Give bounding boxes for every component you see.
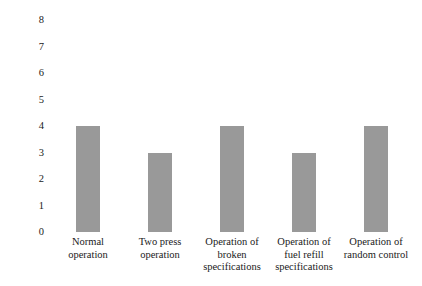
bar[interactable] <box>364 126 388 232</box>
y-tick-label: 7 <box>18 41 44 53</box>
bar-slot <box>196 20 268 232</box>
plot-area <box>52 20 412 232</box>
y-axis-tick-labels: 876543210 <box>0 0 52 286</box>
y-tick-label: 0 <box>18 226 44 238</box>
y-tick-label: 1 <box>18 200 44 212</box>
bar[interactable] <box>76 126 100 232</box>
x-category-label-line: Operation of <box>334 236 418 249</box>
y-tick-label: 6 <box>18 67 44 79</box>
bar-chart: Number of positive answers 876543210 Nor… <box>0 0 422 286</box>
x-category-label-line: specifications <box>262 261 346 274</box>
x-axis-category-labels: NormaloperationTwo pressoperationOperati… <box>52 236 417 286</box>
y-tick-label: 4 <box>18 120 44 132</box>
bar-slot <box>340 20 412 232</box>
y-tick-label: 2 <box>18 173 44 185</box>
x-category-label-line: random control <box>334 249 418 262</box>
y-tick-label: 3 <box>18 147 44 159</box>
y-tick-label: 5 <box>18 94 44 106</box>
bar[interactable] <box>148 153 172 233</box>
bar-slot <box>268 20 340 232</box>
bar[interactable] <box>292 153 316 233</box>
x-category-label: Operation ofrandom control <box>334 236 418 261</box>
y-tick-label: 8 <box>18 14 44 26</box>
bar[interactable] <box>220 126 244 232</box>
bar-slot <box>52 20 124 232</box>
bar-slot <box>124 20 196 232</box>
